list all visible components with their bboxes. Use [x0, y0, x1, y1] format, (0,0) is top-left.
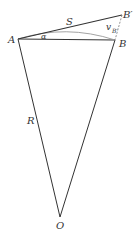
- label-alpha: α: [41, 32, 47, 41]
- label-v-subscript: B′: [111, 27, 118, 34]
- line-BO: [60, 40, 115, 217]
- chord-AB: [18, 39, 115, 40]
- label-S: S: [66, 16, 73, 27]
- label-v: v: [106, 22, 111, 32]
- geometry-diagram: A B B′ O S R α v B′: [0, 0, 137, 232]
- label-B: B: [118, 38, 126, 49]
- label-B-prime: B′: [122, 9, 133, 20]
- label-O: O: [56, 220, 64, 231]
- label-R: R: [26, 115, 35, 126]
- line-AO: [18, 39, 60, 217]
- label-A: A: [7, 34, 15, 45]
